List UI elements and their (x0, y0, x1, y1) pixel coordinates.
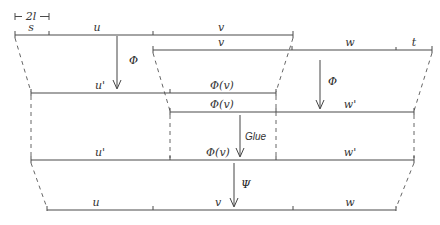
segment-label-u-prime: u' (95, 146, 105, 159)
projection-line (31, 163, 47, 208)
segment-label-v: v (218, 21, 225, 34)
glue-arrow: Glue (236, 115, 267, 157)
phi-arrow-left: Φ (113, 36, 138, 89)
projection-line (396, 163, 414, 208)
segment-label-v: v (215, 196, 222, 209)
top-row-1: s u v (15, 21, 293, 38)
segment-label-w-prime: w' (344, 98, 356, 111)
segment-label-phi-v: Φ(v) (210, 79, 234, 92)
projection-line (15, 38, 31, 92)
projection-line (414, 53, 432, 111)
segment-label-v: v (218, 36, 225, 49)
segment-label-w: w (345, 36, 355, 49)
phi-label: Φ (129, 54, 138, 67)
mid-row-2: Φ(v) w' (170, 98, 414, 115)
segment-label-phi-v: Φ(v) (210, 98, 234, 111)
segment-label-u-prime: u' (95, 79, 105, 92)
gluing-diagram: 2l s u v v w t Φ Φ (0, 0, 440, 225)
segment-label-w: w (345, 196, 355, 209)
projection-line (276, 38, 293, 92)
phi-label: Φ (328, 75, 337, 88)
segment-label-u: u (92, 196, 99, 209)
mid-row-1: u' Φ(v) (31, 79, 276, 96)
psi-arrow: Ψ (230, 163, 251, 207)
bottom-row: u v w (47, 196, 396, 211)
glued-row: u' Φ(v) w' (31, 146, 414, 163)
segment-label-s: s (28, 21, 34, 34)
segment-label-u: u (93, 21, 100, 34)
segment-label-phi-v: Φ(v) (206, 146, 230, 159)
phi-arrow-right: Φ (316, 60, 337, 109)
psi-label: Ψ (241, 178, 251, 191)
glue-label: Glue (245, 131, 267, 142)
segment-label-w-prime: w' (344, 146, 356, 159)
segment-label-t: t (412, 36, 417, 49)
projection-line (153, 53, 170, 111)
